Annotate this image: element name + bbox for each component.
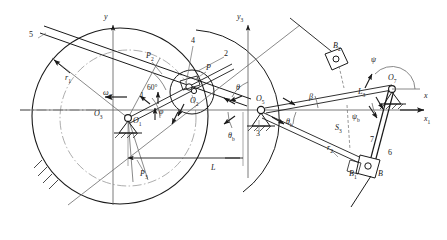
r1-arrow (54, 60, 70, 73)
dimension-label-r2: r2 (327, 144, 333, 154)
point-label-B2: B2 (333, 42, 341, 52)
point-label-B: B (378, 170, 383, 178)
beta-arc (315, 96, 318, 108)
link-number-5: 5 (29, 31, 33, 39)
angle-label-thetab-left: θb (228, 132, 235, 142)
o5-angle-arcs (228, 82, 318, 128)
L-dimension-group (128, 112, 243, 166)
thetab-arc-right (293, 112, 296, 124)
joint-label-O1: O1 (133, 117, 142, 127)
b2-pin (333, 56, 339, 62)
link3-edge-a (262, 118, 366, 166)
outer-circle (32, 28, 208, 204)
psi-arrow (365, 74, 372, 88)
thetab-arrow-right (272, 117, 284, 124)
b2-slider-block (325, 48, 348, 88)
b2-guide-line (290, 18, 336, 55)
axis-label-y3: y3 (237, 13, 243, 23)
L3-edge-b (265, 85, 392, 108)
axis-label-x1: x1 (424, 115, 430, 125)
b-slider-block (347, 155, 380, 207)
point-label-B1: B1 (349, 170, 357, 180)
dimension-label-r1: r1 (65, 74, 71, 84)
link2-direction-arrows (172, 104, 184, 124)
angle-label-thetab-right: θb (286, 118, 293, 128)
angle-label-theta: θ (236, 84, 240, 92)
link-number-1: 1 (140, 92, 144, 100)
point-label-S3: S3 (335, 124, 342, 134)
axis-lines (20, 25, 424, 205)
secondary-arc (196, 30, 279, 192)
axis-label-x: x (424, 92, 428, 100)
coupler-extension-line (68, 25, 300, 205)
point-label-P: P (206, 64, 211, 72)
angle-label-beta: β (309, 93, 313, 101)
link-number-4: 4 (191, 37, 195, 45)
joint-label-O5: O5 (256, 95, 265, 105)
outer-circle-group (32, 28, 208, 204)
s3-dash-line (347, 105, 350, 150)
joint-label-O3: O3 (94, 110, 103, 120)
secondary-arc-group (196, 30, 279, 192)
joint-label-O2: O2 (190, 97, 199, 107)
link-number-2: 2 (224, 50, 228, 58)
kinematic-diagram: y y3 x x1 O3 O1 O2 O5 O7 P P2 P3 B B1 B2… (0, 0, 447, 240)
b2-dashed-drop (339, 66, 344, 88)
angle-label-phi: φ (159, 108, 163, 116)
b-pin (365, 163, 371, 169)
angle-label-omega1: ω1 (103, 89, 111, 99)
b-guide-line-down (351, 176, 371, 207)
angle-label-psib: ψb (352, 113, 360, 123)
angle-label-60deg: 60° (147, 84, 158, 92)
point-label-P3: P3 (140, 170, 148, 180)
point-label-P2: P2 (146, 52, 154, 62)
angle-label-psi: ψ (371, 56, 376, 64)
dimension-label-L3: L3 (358, 88, 365, 98)
o1-radial-down (128, 118, 133, 182)
o2-pin-inner (191, 88, 196, 93)
link-number-7: 7 (370, 136, 374, 144)
psib-arrow (376, 97, 383, 109)
link-number-3: 3 (256, 130, 260, 138)
link-number-6: 6 (388, 149, 392, 157)
axis-label-y: y (104, 13, 108, 21)
dimension-label-L: L (211, 164, 215, 172)
diagram-canvas (0, 0, 447, 240)
link-5-bar (40, 26, 251, 106)
coupler-ext-line (68, 25, 300, 205)
joint-label-O7: O7 (388, 74, 397, 84)
